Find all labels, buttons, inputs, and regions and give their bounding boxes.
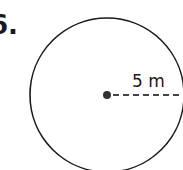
radius-label: 5 m (132, 71, 165, 91)
circle-diagram: 5 m (0, 0, 183, 170)
center-point (103, 91, 111, 99)
